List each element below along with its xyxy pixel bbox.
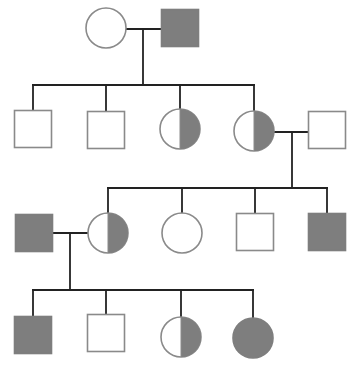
male-square-symbol (16, 215, 53, 252)
individual-iv-1-male-affected (15, 317, 52, 354)
carrier-half-fill (180, 109, 200, 149)
individual-iii-5-male-affected (309, 214, 346, 251)
relationship-lines (33, 29, 327, 318)
male-square-symbol (237, 214, 274, 251)
female-circle-symbol (162, 213, 202, 253)
individual-iv-3-female-carrier (161, 317, 201, 357)
individual-ii-4-female-carrier (234, 111, 274, 151)
male-square-symbol (309, 214, 346, 251)
male-square-symbol (162, 10, 199, 47)
carrier-half-fill (254, 111, 274, 151)
individual-symbols (15, 8, 346, 358)
male-square-symbol (88, 112, 125, 149)
individual-iii-1-male-affected (16, 215, 53, 252)
male-square-symbol (88, 315, 125, 352)
pedigree-chart (0, 0, 356, 373)
individual-ii-1-male-unaffected (15, 111, 52, 148)
individual-iv-4-female-affected (233, 318, 273, 358)
individual-iv-2-male-unaffected (88, 315, 125, 352)
individual-ii-5-male-unaffected (309, 112, 346, 149)
individual-i-2-male-affected (162, 10, 199, 47)
male-square-symbol (309, 112, 346, 149)
pedigree-diagram (0, 0, 356, 373)
carrier-half-fill (108, 213, 128, 253)
individual-iii-4-male-unaffected (237, 214, 274, 251)
female-circle-symbol (86, 8, 126, 48)
individual-i-1-female-unaffected (86, 8, 126, 48)
individual-iii-3-female-unaffected (162, 213, 202, 253)
male-square-symbol (15, 317, 52, 354)
individual-ii-3-female-carrier (160, 109, 200, 149)
individual-iii-2-female-carrier (88, 213, 128, 253)
individual-ii-2-male-unaffected (88, 112, 125, 149)
carrier-half-fill (181, 317, 201, 357)
female-circle-symbol (233, 318, 273, 358)
male-square-symbol (15, 111, 52, 148)
